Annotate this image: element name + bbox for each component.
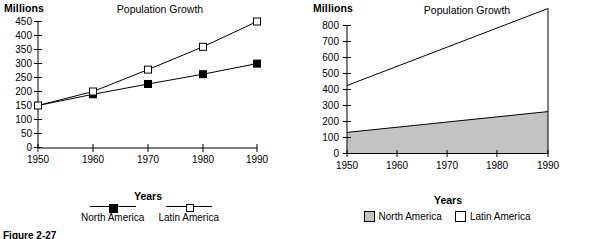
legend-marker-open-square bbox=[166, 206, 212, 207]
legend-label: North America bbox=[81, 212, 144, 223]
series-boundary-latin-america bbox=[347, 9, 548, 86]
x-tick-label: 1950 bbox=[18, 155, 58, 165]
x-tick-label: 1990 bbox=[528, 161, 568, 171]
legend-label: Latin America bbox=[470, 211, 531, 222]
legend-marker-filled-square bbox=[90, 206, 136, 207]
legend-swatch-white bbox=[455, 211, 466, 222]
x-tick-label: 1950 bbox=[327, 161, 367, 171]
series-markers-latin-america bbox=[35, 18, 261, 109]
x-tick-label: 1980 bbox=[477, 161, 517, 171]
chart-legend: North America Latin America bbox=[30, 206, 270, 223]
chart-panel-line: Millions Population Growth 450 400 350 3… bbox=[0, 0, 300, 239]
legend-swatch-gray bbox=[364, 211, 375, 222]
x-tick-label: 1990 bbox=[237, 155, 277, 165]
x-tick-label: 1960 bbox=[377, 161, 417, 171]
x-tick-label: 1960 bbox=[73, 155, 113, 165]
legend-label: Latin America bbox=[158, 212, 219, 223]
series-area-north-america bbox=[347, 112, 548, 154]
legend-label: North America bbox=[379, 211, 442, 222]
chart-panel-area: Millions Population Growth 800 700 600 5… bbox=[297, 0, 597, 239]
legend-item-latin-america[interactable]: Latin America bbox=[158, 206, 219, 223]
chart-legend: North America Latin America bbox=[327, 211, 567, 222]
x-tick-label: 1970 bbox=[427, 161, 467, 171]
x-tick-label: 1980 bbox=[183, 155, 223, 165]
figure-container: Millions Population Growth 450 400 350 3… bbox=[0, 0, 597, 239]
legend-item-north-america[interactable]: North America bbox=[81, 206, 144, 223]
legend-item-latin-america[interactable]: Latin America bbox=[455, 211, 531, 222]
series-line-latin-america bbox=[38, 22, 257, 106]
x-axis-title: Years bbox=[108, 190, 188, 202]
legend-item-north-america[interactable]: North America bbox=[364, 211, 442, 222]
x-tick-label: 1970 bbox=[128, 155, 168, 165]
x-axis-title: Years bbox=[408, 194, 488, 206]
figure-caption: Figure 2-27 bbox=[3, 230, 56, 239]
line-plot-canvas bbox=[0, 0, 300, 239]
